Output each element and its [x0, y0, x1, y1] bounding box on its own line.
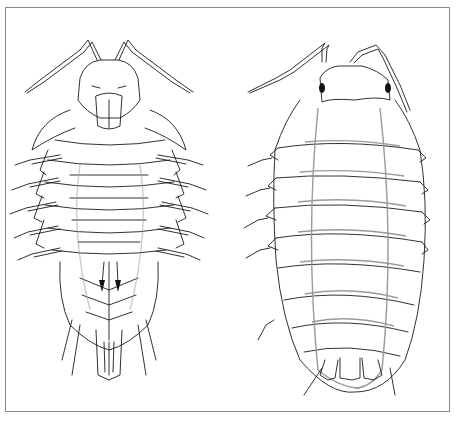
- isopod-illustration: [0, 0, 460, 423]
- dorsal-view: [244, 43, 430, 395]
- ventral-view: [10, 40, 208, 380]
- eye-right-icon: [385, 83, 391, 93]
- eye-left-icon: [319, 83, 325, 93]
- arrow-right-icon: [115, 280, 121, 292]
